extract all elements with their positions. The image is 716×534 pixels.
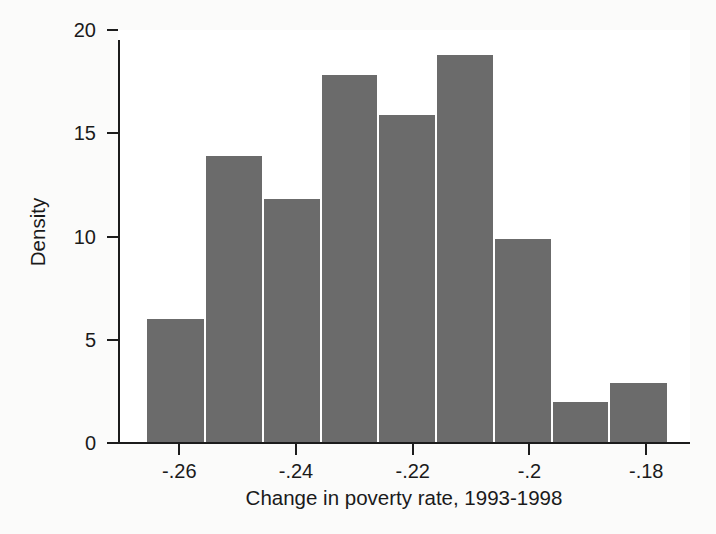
histogram-bar — [147, 319, 205, 443]
histogram-bars — [118, 30, 690, 443]
x-axis-tick — [412, 444, 414, 455]
histogram-bar — [609, 383, 667, 443]
histogram-bar — [436, 55, 494, 443]
histogram-bar — [378, 115, 436, 443]
histogram-bar — [321, 75, 379, 443]
x-axis-tick — [528, 444, 530, 455]
y-axis-tick-label: 20 — [36, 20, 96, 40]
histogram-bar — [494, 239, 552, 443]
x-axis-tick-label: -.18 — [601, 461, 691, 481]
y-axis-tick-label: 0 — [36, 433, 96, 453]
x-axis-tick-label: -.26 — [134, 461, 224, 481]
histogram-bar — [205, 156, 263, 443]
x-axis-tick — [295, 444, 297, 455]
x-axis-tick-label: -.2 — [484, 461, 574, 481]
x-axis-title: Change in poverty rate, 1993-1998 — [118, 486, 690, 510]
y-axis-tick — [107, 339, 118, 341]
y-axis-tick — [107, 29, 118, 31]
y-axis-tick — [107, 442, 118, 444]
histogram-bar — [552, 402, 610, 443]
figure-canvas: 05101520 -.26-.24-.22-.2-.18 Change in p… — [0, 0, 716, 534]
y-axis-line — [118, 40, 120, 444]
x-axis-tick-label: -.24 — [251, 461, 341, 481]
x-axis-tick — [178, 444, 180, 455]
x-axis-tick — [645, 444, 647, 455]
y-axis-tick — [107, 132, 118, 134]
y-axis-tick-label: 15 — [36, 123, 96, 143]
y-axis-tick — [107, 236, 118, 238]
y-axis-tick-label: 5 — [36, 330, 96, 350]
x-axis-tick-label: -.22 — [368, 461, 458, 481]
histogram-bar — [263, 199, 321, 443]
y-axis-title: Density — [26, 162, 50, 302]
plot-area — [118, 30, 690, 443]
x-axis-line — [118, 442, 690, 444]
